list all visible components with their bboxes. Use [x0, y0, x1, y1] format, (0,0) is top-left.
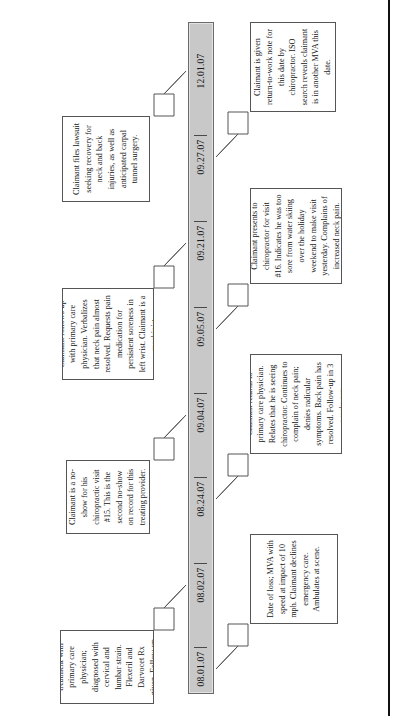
note-box-09-21-07[interactable]: Claimant follows-up with primary care ph…	[62, 288, 154, 380]
note-box-09-04-07[interactable]: Claimant is a no-show for his chiropract…	[66, 460, 150, 534]
note-text: Claimant presents to chiropractor for vi…	[250, 194, 342, 278]
note-box-08-02-07[interactable]: Claimant seeks treatment with primary ca…	[60, 630, 154, 704]
note-text: Claimant files lawsuit seeking recovery …	[71, 122, 141, 196]
note-text: Claimant follows-up with primary care ph…	[62, 294, 154, 374]
note-box-08-01-07[interactable]: Date of loss; MVA with speed at impact o…	[250, 534, 338, 624]
note-text: Date of loss; MVA with speed at impact o…	[265, 540, 323, 618]
note-box-08-24-07[interactable]: Claimant returns to primary care physici…	[250, 354, 342, 454]
note-box-09-27-07[interactable]: Claimant is given return-to-work note fo…	[250, 22, 336, 112]
note-text: Claimant is a no-show for his chiropract…	[67, 466, 148, 528]
note-box-09-05-07[interactable]: Claimant presents to chiropractor for vi…	[250, 188, 342, 284]
note-text: Claimant seeks treatment with primary ca…	[60, 636, 154, 698]
note-box-12-01-07[interactable]: Claimant files lawsuit seeking recovery …	[62, 116, 150, 202]
note-text: Claimant returns to primary care physici…	[250, 360, 342, 448]
page-frame: 08.01.07 08.02.07 08.24.07 09.04.07 09.0…	[0, 0, 410, 716]
page-edge-line	[388, 0, 390, 716]
timeline-diagram: 08.01.07 08.02.07 08.24.07 09.04.07 09.0…	[0, 0, 410, 716]
note-text: Claimant is given return-to-work note fo…	[252, 28, 333, 106]
